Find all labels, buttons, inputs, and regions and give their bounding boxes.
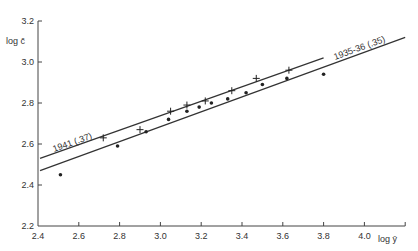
plus-marker [167,108,174,115]
plus-marker [137,126,144,133]
y-tick-label: 2.6 [21,139,34,149]
x-axis-label: log ȳ [378,234,398,244]
y-axis-label: log c̄ [6,36,26,46]
x-tick-label: 2.6 [73,231,86,241]
fit-line-1935-36 [40,37,405,170]
plus-marker [285,67,292,74]
dot-marker [226,97,230,101]
x-tick-label: 3.0 [154,231,167,241]
y-tick-label: 3.2 [21,16,34,26]
dot-marker [210,101,214,105]
dot-marker [197,105,201,109]
line-label-1941: 1941 (.37) [51,131,93,154]
dot-marker [261,83,265,87]
x-tick-label: 2.4 [32,231,45,241]
plus-marker [228,87,235,94]
y-tick-label: 2.4 [21,180,34,190]
x-tick-label: 3.8 [317,231,330,241]
fit-lines [40,37,405,170]
x-tick-label: 3.6 [277,231,290,241]
dot-marker [322,73,326,77]
dot-marker [167,118,171,122]
scatter-chart: 2.42.62.83.03.23.43.63.84.02.22.42.62.83… [0,0,418,251]
dot-marker [116,144,120,148]
x-tick-label: 4.0 [358,231,371,241]
dot-marker [285,77,289,81]
y-tick-label: 2.2 [21,221,34,231]
axis-labels: log c̄ log ȳ 1941 (.37) 1935-36 (.35) [6,34,398,244]
dot-marker [144,130,148,134]
y-tick-label: 2.8 [21,98,34,108]
x-tick-label: 3.2 [195,231,208,241]
dot-marker [244,91,248,95]
x-tick-label: 3.4 [236,231,249,241]
y-tick-label: 3.0 [21,57,34,67]
chart-canvas: 2.42.62.83.03.23.43.63.84.02.22.42.62.83… [0,0,418,251]
line-label-1935-36: 1935-36 (.35) [332,34,386,62]
x-tick-label: 2.8 [113,231,126,241]
dot-marker [59,173,63,177]
data-points [59,67,326,177]
dot-marker [185,109,189,113]
